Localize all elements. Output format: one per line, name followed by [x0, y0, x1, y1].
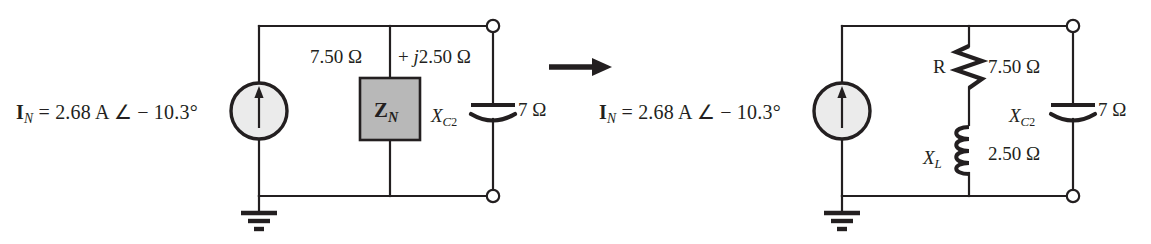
inductor-icon — [956, 127, 969, 174]
left-source-label: IN = 2.68 A ∠ − 10.3° — [16, 102, 198, 126]
right-source-label-sub: N — [607, 111, 616, 126]
right-current-source-icon — [814, 83, 870, 139]
resistor-label: R — [933, 57, 946, 76]
impedance-annotation-imag-value: 2.50 Ω — [419, 46, 471, 67]
inductor-symbol-sub: L — [935, 156, 942, 171]
impedance-block-symbol: Z — [374, 98, 388, 122]
left-capacitor-value: 7 Ω — [518, 100, 546, 119]
impedance-block-label: ZN — [374, 100, 398, 124]
impedance-block-symbol-sub: N — [388, 109, 398, 125]
right-terminal-bottom-icon — [1067, 190, 1079, 202]
right-source-label: IN = 2.68 A ∠ − 10.3° — [599, 102, 781, 126]
left-terminal-bottom-icon — [487, 190, 499, 202]
right-ground-icon — [824, 213, 860, 229]
right-capacitor-label: XC2 — [1009, 106, 1035, 129]
left-capacitor-symbol-sub: C — [443, 114, 452, 129]
left-source-label-value: = 2.68 A ∠ − 10.3° — [38, 101, 197, 123]
left-terminal-top-icon — [487, 20, 499, 32]
right-arrow-icon — [549, 58, 612, 76]
resistor-icon — [956, 46, 982, 88]
right-capacitor-value: 7 Ω — [1098, 100, 1126, 119]
right-capacitor-symbol-sub: C — [1021, 114, 1030, 129]
left-capacitor-label: XC2 — [431, 106, 457, 129]
right-capacitor-symbol-sub2: 2 — [1029, 116, 1035, 129]
circuit-figure: IN = 2.68 A ∠ − 10.3° 7.50 Ω + j2.50 Ω Z… — [0, 0, 1151, 244]
left-current-source-icon — [231, 83, 287, 139]
inductor-symbol: X — [923, 147, 935, 168]
left-capacitor-symbol: X — [431, 105, 443, 126]
right-capacitor-symbol: X — [1009, 105, 1021, 126]
impedance-operator: + — [398, 46, 409, 67]
inductor-label: XL — [923, 148, 942, 171]
right-terminal-top-icon — [1067, 20, 1079, 32]
left-ground-icon — [241, 213, 277, 229]
resistor-value: 7.50 Ω — [988, 57, 1040, 76]
right-source-label-value: = 2.68 A ∠ − 10.3° — [621, 101, 780, 123]
impedance-annotation-real: 7.50 Ω — [310, 47, 362, 66]
left-source-label-sub: N — [24, 111, 33, 126]
left-capacitor-symbol-sub2: 2 — [451, 116, 457, 129]
inductor-value: 2.50 Ω — [988, 144, 1040, 163]
impedance-annotation-imag: + j2.50 Ω — [398, 47, 471, 66]
